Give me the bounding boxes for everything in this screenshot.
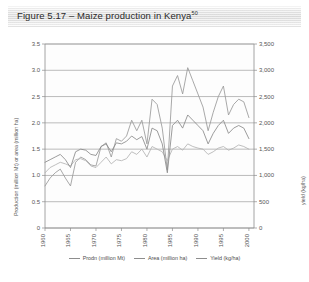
svg-text:3,000: 3,000 <box>259 67 275 73</box>
legend-label-prodn: Prodn (million Mt) <box>83 255 125 261</box>
svg-text:1980: 1980 <box>142 233 148 247</box>
svg-text:0: 0 <box>37 225 41 231</box>
figure-title-bar: Figure 5.17 – Maize production in Kenya5… <box>8 6 301 27</box>
svg-text:3,500: 3,500 <box>259 41 275 47</box>
svg-text:2,500: 2,500 <box>259 94 275 100</box>
svg-text:2000: 2000 <box>244 233 250 247</box>
svg-text:2.0: 2.0 <box>32 120 41 126</box>
page-title: Figure 5.17 – Maize production in Kenya5… <box>17 10 198 21</box>
legend-line-icon <box>134 258 145 259</box>
legend-label-area: Area (million ha) <box>148 255 187 261</box>
figure-title-text: Figure 5.17 – Maize production in Kenya <box>17 10 191 21</box>
legend-item-yield[interactable]: Yield (kg/ha) <box>196 255 240 261</box>
svg-text:1,000: 1,000 <box>259 172 275 178</box>
svg-text:1995: 1995 <box>218 233 224 247</box>
svg-text:1.5: 1.5 <box>32 146 41 152</box>
svg-text:1990: 1990 <box>193 233 199 247</box>
figure-container: Figure 5.17 – Maize production in Kenya5… <box>0 0 309 282</box>
svg-text:1965: 1965 <box>65 233 71 247</box>
svg-text:1975: 1975 <box>116 233 122 247</box>
svg-text:0: 0 <box>259 225 263 231</box>
svg-text:500: 500 <box>259 199 270 205</box>
svg-text:1,500: 1,500 <box>259 146 275 152</box>
chart-area: 000.55001.01,0001.51,5002.02,0002.52,500… <box>0 30 309 282</box>
svg-text:1960: 1960 <box>40 233 46 247</box>
svg-text:3.5: 3.5 <box>32 41 41 47</box>
svg-text:2.5: 2.5 <box>32 94 41 100</box>
y-axis-right-label: yield (kg/ha) <box>300 176 306 205</box>
legend-line-icon <box>69 258 80 259</box>
legend-line-icon <box>196 258 207 259</box>
svg-text:1970: 1970 <box>91 233 97 247</box>
svg-text:1985: 1985 <box>167 233 173 247</box>
line-chart-svg: 000.55001.01,0001.51,5002.02,0002.52,500… <box>0 30 309 282</box>
legend-item-area[interactable]: Area (million ha) <box>134 255 187 261</box>
y-axis-left-label: Production (million Mt) or area (million… <box>13 118 19 216</box>
svg-text:1.0: 1.0 <box>32 172 41 178</box>
svg-text:0.5: 0.5 <box>32 199 41 205</box>
chart-legend: Prodn (million Mt) Area (million ha) Yie… <box>0 255 309 261</box>
legend-label-yield: Yield (kg/ha) <box>210 255 240 261</box>
svg-text:2,000: 2,000 <box>259 120 275 126</box>
svg-text:3.0: 3.0 <box>32 67 41 73</box>
legend-item-prodn[interactable]: Prodn (million Mt) <box>69 255 125 261</box>
footnote-marker: 50 <box>191 10 197 16</box>
